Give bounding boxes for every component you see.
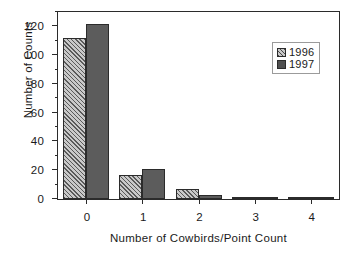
y-tick-label-20: 20 [31,164,44,176]
y-tick-label-60: 60 [31,107,44,119]
x-tick-2: 2 [199,199,200,204]
y-tick-label-80: 80 [31,78,44,90]
legend-item-1997: 1997 [277,58,314,70]
x-tick-4: 4 [311,199,312,204]
legend-swatch-1996-icon [277,48,286,57]
x-tick-0: 0 [86,199,87,204]
x-tick-label-4: 4 [309,211,316,223]
x-tick-1: 1 [142,199,143,204]
legend-label-1997: 1997 [289,59,314,70]
bar-1996-cat-1 [119,175,142,199]
bar-1997-cat-4 [311,197,334,199]
bar-1997-cat-2 [199,195,222,199]
y-tick-label-0: 0 [37,193,44,205]
figure: Number of Counts 02040608010012001234 Nu… [0,0,352,262]
y-minor-tick-110 [55,40,59,41]
y-tick-label-120: 120 [24,20,44,32]
bar-1997-cat-3 [255,197,278,199]
y-tick-40: 40 [52,140,58,141]
x-tick-3: 3 [255,199,256,204]
y-tick-20: 20 [52,169,58,170]
plot-area: 02040608010012001234 [57,11,340,200]
y-minor-tick-90 [55,69,59,70]
legend-item-1996: 1996 [277,46,314,58]
bar-1996-cat-0 [63,38,86,199]
bar-1997-cat-0 [86,24,109,199]
y-tick-80: 80 [52,83,58,84]
y-tick-60: 60 [52,112,58,113]
legend-swatch-1997-icon [277,60,286,69]
y-tick-120: 120 [52,25,58,26]
x-tick-label-1: 1 [140,211,147,223]
legend: 1996 1997 [272,42,320,74]
x-tick-label-3: 3 [252,211,259,223]
y-minor-tick-130 [55,11,59,12]
x-tick-label-2: 2 [196,211,203,223]
x-tick-label-0: 0 [84,211,91,223]
bar-1997-cat-1 [142,169,165,199]
y-tick-0: 0 [52,198,58,199]
y-tick-label-40: 40 [31,135,44,147]
y-minor-tick-50 [55,126,59,127]
legend-label-1996: 1996 [289,47,314,58]
y-minor-tick-70 [55,97,59,98]
y-minor-tick-30 [55,155,59,156]
x-axis-title: Number of Cowbirds/Point Count [57,232,340,244]
y-tick-label-100: 100 [24,49,44,61]
bar-1996-cat-4 [288,197,311,199]
y-minor-tick-10 [55,184,59,185]
y-tick-100: 100 [52,54,58,55]
bar-1996-cat-2 [176,189,199,199]
bar-1996-cat-3 [232,197,255,199]
